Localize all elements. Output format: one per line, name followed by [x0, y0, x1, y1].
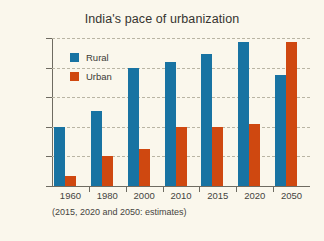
bar-rural-1980: [91, 111, 102, 186]
legend-item-urban: Urban: [70, 71, 112, 82]
legend-item-rural: Rural: [70, 52, 112, 63]
x-tick-mark: [236, 186, 237, 192]
y-tick-mark: [46, 68, 52, 69]
x-tick-mark: [199, 186, 200, 192]
bar-urban-2000: [139, 149, 150, 186]
bar-urban-2010: [176, 127, 187, 186]
bar-urban-1960: [65, 176, 76, 186]
bar-group: [273, 38, 310, 186]
x-tick-mark: [89, 186, 90, 192]
chart-title: India's pace of urbanization: [0, 12, 324, 26]
bar-group: [236, 38, 273, 186]
gridline: [52, 186, 310, 187]
legend-swatch-urban: [70, 72, 79, 81]
bar-urban-2020: [249, 124, 260, 186]
bar-urban-2015: [212, 127, 223, 186]
x-tick-mark: [273, 186, 274, 192]
chart-legend: Rural Urban: [70, 52, 112, 90]
legend-label-urban: Urban: [86, 71, 112, 82]
bar-group: [126, 38, 163, 186]
bar-rural-2000: [128, 68, 139, 186]
chart-footnote: (2015, 2020 and 2050: estimates): [52, 207, 187, 217]
y-tick-mark: [46, 186, 52, 187]
x-tick-label: 2050: [269, 190, 315, 201]
bar-rural-2050: [275, 75, 286, 186]
y-tick-mark: [46, 97, 52, 98]
bar-urban-1980: [102, 156, 113, 186]
bar-rural-2015: [201, 54, 212, 186]
bar-rural-2020: [238, 42, 249, 186]
bar-group: [163, 38, 200, 186]
x-tick-mark: [126, 186, 127, 192]
y-tick-mark: [46, 127, 52, 128]
y-tick-mark: [46, 156, 52, 157]
bar-rural-2010: [165, 62, 176, 186]
bar-rural-1960: [54, 127, 65, 186]
x-tick-mark: [163, 186, 164, 192]
y-tick-mark: [46, 38, 52, 39]
bar-group: [199, 38, 236, 186]
chart-figure: India's pace of urbanization Population …: [0, 0, 324, 241]
legend-label-rural: Rural: [86, 52, 109, 63]
legend-swatch-rural: [70, 53, 79, 62]
bar-urban-2050: [286, 42, 297, 186]
